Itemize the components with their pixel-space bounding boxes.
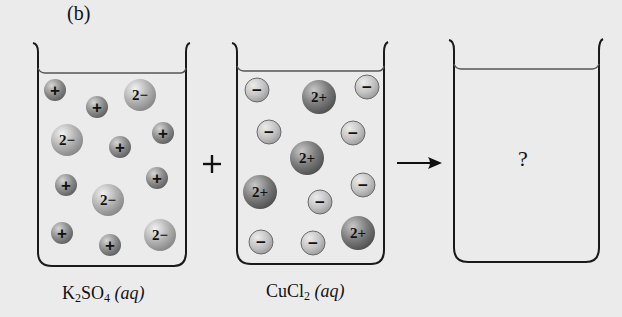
plus-operator bbox=[203, 155, 221, 173]
ion-charge-label: − bbox=[308, 234, 318, 253]
formula-subscript: 4 bbox=[104, 291, 110, 305]
ion-cation-small: + bbox=[99, 234, 121, 256]
ion-charge-label: + bbox=[105, 236, 115, 255]
ion-anion-small: − bbox=[341, 121, 365, 145]
formula-part: SO bbox=[81, 283, 104, 303]
ion-anion-small: − bbox=[257, 120, 281, 144]
ion-charge-label: + bbox=[115, 138, 125, 157]
label-cucl2: CuCl2 (aq) bbox=[266, 281, 345, 304]
ion-anion-large: 2− bbox=[144, 219, 176, 251]
ion-charge-label: − bbox=[256, 233, 266, 252]
reaction-diagram: ++2−2−+++2−+++2− −2+−−−2+2+−−−−2+ bbox=[0, 0, 622, 317]
ion-group-k2so4: ++2−2−+++2−+++2− bbox=[44, 79, 176, 256]
ion-charge-label: + bbox=[50, 81, 60, 100]
ion-cation-small: + bbox=[109, 136, 131, 158]
panel-label: (b) bbox=[67, 2, 90, 25]
unknown-product-mark: ? bbox=[518, 146, 528, 172]
ion-charge-label: 2+ bbox=[299, 150, 315, 166]
ion-charge-label: − bbox=[362, 78, 372, 97]
ion-anion-large: 2− bbox=[51, 124, 83, 156]
ion-anion-small: − bbox=[301, 231, 325, 255]
ion-anion-small: − bbox=[355, 75, 379, 99]
ion-cation-small: + bbox=[152, 122, 174, 144]
ion-charge-label: 2+ bbox=[350, 225, 366, 241]
liquid-surface bbox=[237, 66, 384, 71]
ion-cation-large: 2+ bbox=[243, 175, 277, 209]
ion-charge-label: − bbox=[348, 124, 358, 143]
ion-charge-label: − bbox=[315, 193, 325, 212]
ion-charge-label: − bbox=[252, 81, 262, 100]
ion-charge-label: 2+ bbox=[252, 184, 268, 200]
formula-subscript: 2 bbox=[304, 289, 310, 303]
ion-charge-label: + bbox=[61, 176, 71, 195]
ion-cation-small: + bbox=[51, 222, 73, 244]
ion-charge-label: 2− bbox=[132, 87, 148, 103]
ion-cation-small: + bbox=[44, 79, 66, 101]
ion-charge-label: 2− bbox=[59, 132, 75, 148]
liquid-surface bbox=[454, 64, 599, 69]
liquid-surface bbox=[38, 68, 186, 73]
state-symbol: (aq) bbox=[115, 283, 145, 303]
ion-charge-label: + bbox=[92, 98, 102, 117]
ion-charge-label: + bbox=[152, 169, 162, 188]
formula-part: CuCl bbox=[266, 281, 304, 301]
ion-cation-large: 2+ bbox=[290, 141, 324, 175]
ion-anion-large: 2− bbox=[92, 184, 124, 216]
ion-charge-label: + bbox=[57, 224, 67, 243]
label-k2so4: K2SO4 (aq) bbox=[62, 283, 145, 306]
ion-group-cucl2: −2+−−−2+2+−−−−2+ bbox=[243, 75, 379, 255]
formula-part: K bbox=[62, 283, 75, 303]
ion-charge-label: + bbox=[158, 124, 168, 143]
reaction-arrow bbox=[397, 157, 442, 169]
ion-cation-large: 2+ bbox=[302, 80, 336, 114]
ion-charge-label: 2− bbox=[100, 192, 116, 208]
beaker-k2so4: ++2−2−+++2−+++2− bbox=[33, 43, 190, 266]
ion-cation-large: 2+ bbox=[341, 216, 375, 250]
ion-cation-small: + bbox=[146, 167, 168, 189]
ion-anion-small: − bbox=[308, 190, 332, 214]
ion-cation-small: + bbox=[86, 96, 108, 118]
ion-anion-large: 2− bbox=[124, 79, 156, 111]
beaker-cucl2: −2+−−−2+2+−−−−2+ bbox=[232, 42, 388, 264]
ion-cation-small: + bbox=[55, 174, 77, 196]
ion-charge-label: 2+ bbox=[311, 89, 327, 105]
ion-charge-label: 2− bbox=[152, 227, 168, 243]
ion-charge-label: − bbox=[358, 176, 368, 195]
ion-charge-label: − bbox=[264, 123, 274, 142]
ion-anion-small: − bbox=[245, 78, 269, 102]
ion-anion-small: − bbox=[249, 230, 273, 254]
state-symbol: (aq) bbox=[315, 281, 345, 301]
ion-anion-small: − bbox=[351, 173, 375, 197]
